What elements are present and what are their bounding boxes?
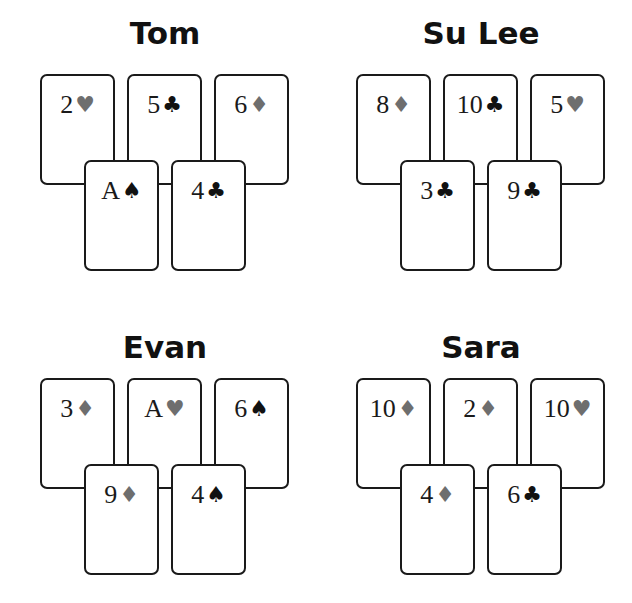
diamond-icon: ♦ (249, 94, 269, 116)
hand-su-lee: Su Lee 8♦ 10♣ 5♥ 3♣ 9♣ (356, 0, 606, 270)
hand-evan: Evan 3♦ A♥ 6♠ 9♦ 4♠ (40, 304, 290, 574)
card-rank: 9 (507, 178, 520, 204)
spade-icon: ♠ (206, 484, 226, 506)
card: 3♣ (400, 160, 475, 271)
card: 9♦ (84, 464, 159, 575)
heart-icon: ♥ (565, 94, 585, 116)
card-rank: 6 (234, 396, 247, 422)
player-name: Sara (356, 332, 606, 363)
card-rank: 4 (420, 482, 433, 508)
card-rank: 10 (544, 396, 570, 422)
card-rank: 3 (420, 178, 433, 204)
player-name: Evan (40, 332, 290, 363)
card-rank: 2 (60, 92, 73, 118)
card-rank: 4 (191, 178, 204, 204)
card: A♠ (84, 160, 159, 271)
card-rank: A (144, 396, 163, 422)
club-icon: ♣ (206, 180, 226, 202)
heart-icon: ♥ (165, 398, 185, 420)
card-rank: 2 (463, 396, 476, 422)
card-rank: 10 (370, 396, 396, 422)
diamond-icon: ♦ (435, 484, 455, 506)
card: 6♣ (487, 464, 562, 575)
diamond-icon: ♦ (75, 398, 95, 420)
card-rank: 6 (507, 482, 520, 508)
heart-icon: ♥ (75, 94, 95, 116)
card: 4♦ (400, 464, 475, 575)
club-icon: ♣ (162, 94, 182, 116)
card-rank: 5 (550, 92, 563, 118)
card: 4♠ (171, 464, 246, 575)
card-rank: 4 (191, 482, 204, 508)
hand-sara: Sara 10♦ 2♦ 10♥ 4♦ 6♣ (356, 304, 606, 574)
card-rank: 10 (457, 92, 483, 118)
diamond-icon: ♦ (478, 398, 498, 420)
player-name: Su Lee (356, 18, 606, 49)
card: 9♣ (487, 160, 562, 271)
card-rank: 9 (104, 482, 117, 508)
card-rank: 6 (234, 92, 247, 118)
card: 4♣ (171, 160, 246, 271)
club-icon: ♣ (485, 94, 505, 116)
hand-tom: Tom 2♥ 5♣ 6♦ A♠ 4♣ (40, 0, 290, 270)
card-rank: 3 (60, 396, 73, 422)
diamond-icon: ♦ (398, 398, 418, 420)
spade-icon: ♠ (249, 398, 269, 420)
card-rank: 5 (147, 92, 160, 118)
heart-icon: ♥ (572, 398, 592, 420)
diamond-icon: ♦ (119, 484, 139, 506)
club-icon: ♣ (522, 484, 542, 506)
player-name: Tom (40, 18, 290, 49)
diamond-icon: ♦ (391, 94, 411, 116)
card-rank: 8 (376, 92, 389, 118)
spade-icon: ♠ (122, 180, 142, 202)
club-icon: ♣ (435, 180, 455, 202)
card-rank: A (101, 178, 120, 204)
club-icon: ♣ (522, 180, 542, 202)
